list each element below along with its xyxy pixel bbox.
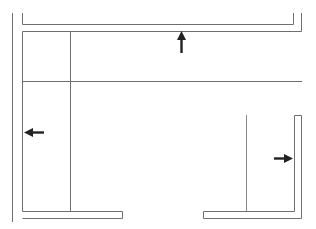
bottom-right-wall <box>204 116 302 219</box>
arrow-left-icon <box>24 128 44 137</box>
top-bracket-wall <box>23 13 294 25</box>
floor-plan-diagram <box>0 0 316 229</box>
bottom-left-wall <box>23 32 123 219</box>
floor-plan-canvas <box>0 0 316 229</box>
arrow-right-icon <box>274 154 293 163</box>
top-right-wall <box>23 13 302 32</box>
arrow-up-icon <box>177 31 186 53</box>
